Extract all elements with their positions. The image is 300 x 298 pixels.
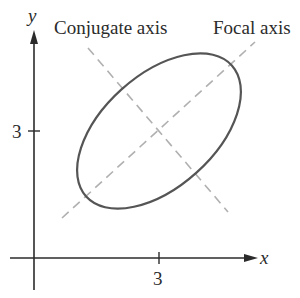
y-axis-arrow-icon [30,30,38,44]
x-axis-arrow-icon [244,254,258,262]
y-tick-label: 3 [12,121,22,142]
x-axis-label: x [259,247,269,268]
x-tick-label: 3 [153,268,163,289]
conjugate-axis-line [88,48,228,212]
conjugate-axis-label: Conjugate axis [54,17,167,38]
y-axis-label: y [26,5,37,26]
focal-axis-label: Focal axis [213,17,291,38]
ellipse-diagram: Conjugate axis Focal axis y x 3 3 [0,0,300,298]
